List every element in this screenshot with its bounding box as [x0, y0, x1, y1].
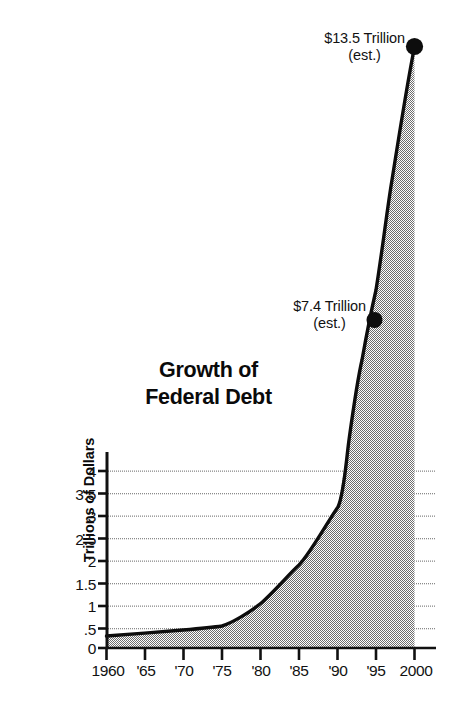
- x-tick-label-1975: '75: [213, 662, 232, 680]
- federal-debt-chart: $13.5 Trillion (est.) $7.4 Trillion (est…: [0, 0, 453, 712]
- x-tick-label-1985: '85: [290, 662, 309, 680]
- x-tick-label-1960: 1960: [92, 662, 125, 680]
- x-axis-tick-labels: 1960 '65 '70 '75 '80 '85 '90 '95 2000: [0, 0, 453, 712]
- x-tick-label-1970: '70: [175, 662, 194, 680]
- x-tick-label-2000: 2000: [400, 662, 433, 680]
- x-tick-label-1995: '95: [367, 662, 386, 680]
- x-tick-label-1980: '80: [252, 662, 271, 680]
- x-tick-label-1965: '65: [137, 662, 156, 680]
- x-tick-label-1990: '90: [329, 662, 348, 680]
